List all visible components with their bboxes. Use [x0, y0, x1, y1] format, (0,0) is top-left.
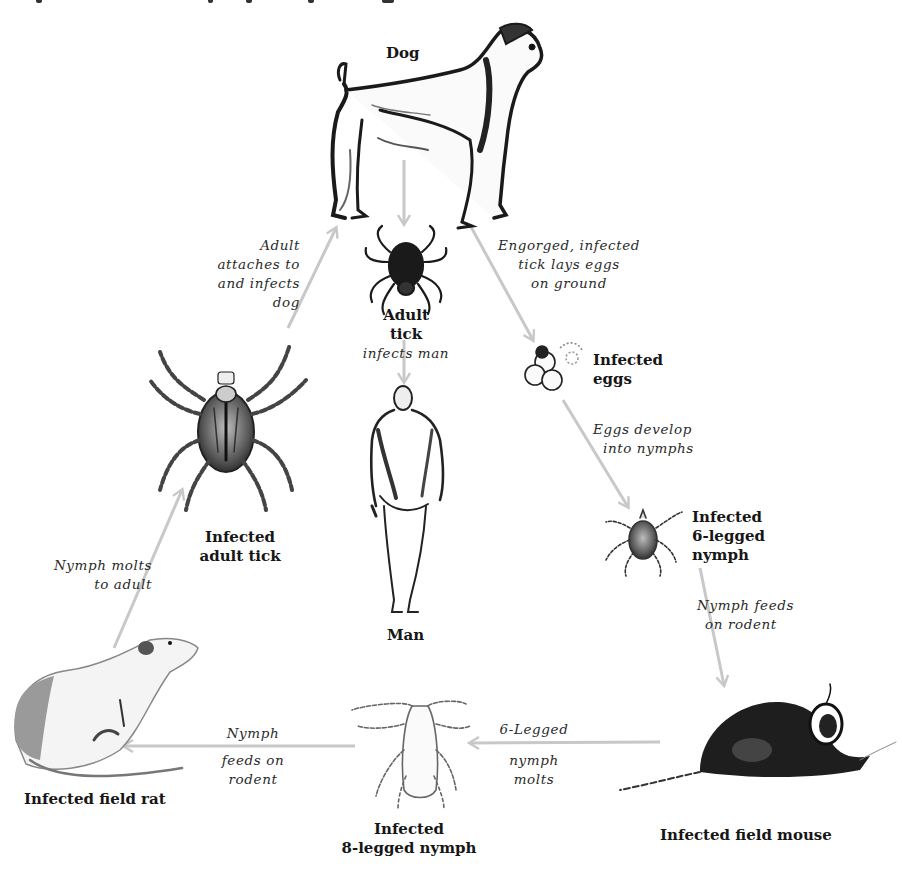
caption-mouse-to-8nymph: 6-Legged nymph molts [484, 720, 584, 789]
infected-adult-tick-illustration [150, 344, 306, 510]
caption-eggs-to-nymph-line1: Eggs develop [593, 420, 694, 439]
eight-legged-nymph-illustration [352, 701, 470, 810]
man-illustration [371, 386, 443, 612]
dog-label: Dog [386, 44, 420, 63]
caption-mouse-to-8nymph-line3: molts [484, 770, 584, 789]
caption-dog-to-eggs: Engorged, infected tick lays eggs on gro… [484, 236, 654, 293]
caption-adult-to-dog-line2: attaches to [196, 255, 300, 274]
caption-dog-to-eggs-line2: tick lays eggs [484, 255, 654, 274]
tick-life-cycle-diagram: Dog Adult tick infects man Man Infected … [0, 0, 902, 881]
caption-dog-to-eggs-line1: Engorged, infected [484, 236, 654, 255]
field-mouse-label: Infected field mouse [660, 826, 832, 845]
adult-tick-illustration [366, 226, 447, 314]
caption-rat-to-adult-line2: to adult [40, 575, 152, 594]
infected-eggs-label: Infected eggs [593, 351, 663, 389]
field-rat-illustration [15, 638, 198, 776]
infected-eggs-label-line1: Infected [593, 351, 663, 370]
caption-nymph-to-mouse-line2: on rodent [697, 615, 794, 634]
caption-eggs-to-nymph: Eggs develop into nymphs [593, 420, 694, 458]
infected-eggs-label-line2: eggs [593, 370, 663, 389]
caption-adult-to-dog-line3: and infects [196, 274, 300, 293]
eggs-illustration [525, 343, 582, 390]
man-label: Man [387, 626, 424, 645]
eight-legged-nymph-label-line2: 8-legged nymph [334, 839, 484, 858]
caption-8nymph-to-rat: Nymph feeds on rodent [200, 724, 306, 789]
caption-8nymph-to-rat-line1: Nymph [200, 724, 306, 743]
six-legged-nymph-label-line2: 6-legged [692, 527, 765, 546]
caption-nymph-to-mouse-line1: Nymph feeds [697, 596, 794, 615]
caption-dog-to-eggs-line3: on ground [484, 274, 654, 293]
infected-adult-tick-label-line2: adult tick [190, 547, 290, 566]
caption-8nymph-to-rat-line2: feeds on [200, 751, 306, 770]
adult-tick-label-line1: Adult [370, 306, 442, 325]
caption-adult-to-dog-line4: dog [196, 293, 300, 312]
caption-rat-to-adult: Nymph molts to adult [40, 556, 152, 594]
six-legged-nymph-label-line1: Infected [692, 508, 765, 527]
caption-mouse-to-8nymph-line2: nymph [484, 751, 584, 770]
field-rat-label: Infected field rat [24, 790, 166, 809]
caption-nymph-to-mouse: Nymph feeds on rodent [697, 596, 794, 634]
six-legged-nymph-label: Infected 6-legged nymph [692, 508, 765, 565]
adult-tick-label-line2: tick [370, 325, 442, 344]
caption-mouse-to-8nymph-line1: 6-Legged [484, 720, 584, 739]
caption-adult-to-dog-line1: Adult [196, 236, 300, 255]
six-legged-nymph-label-line3: nymph [692, 546, 765, 565]
infected-adult-tick-label-line1: Infected [190, 528, 290, 547]
diagram-artwork [0, 0, 902, 881]
adult-tick-label: Adult tick [370, 306, 442, 344]
caption-rat-to-adult-line1: Nymph molts [40, 556, 152, 575]
caption-adult-to-dog: Adult attaches to and infects dog [196, 236, 300, 312]
caption-8nymph-to-rat-line3: rodent [200, 770, 306, 789]
infected-adult-tick-label: Infected adult tick [190, 528, 290, 566]
dog-illustration [333, 24, 542, 228]
eight-legged-nymph-label: Infected 8-legged nymph [334, 820, 484, 858]
adult-tick-caption: infects man [350, 344, 462, 363]
eight-legged-nymph-label-line1: Infected [334, 820, 484, 839]
six-legged-nymph-illustration [606, 510, 682, 576]
caption-eggs-to-nymph-line2: into nymphs [593, 439, 694, 458]
field-mouse-illustration [620, 684, 896, 790]
